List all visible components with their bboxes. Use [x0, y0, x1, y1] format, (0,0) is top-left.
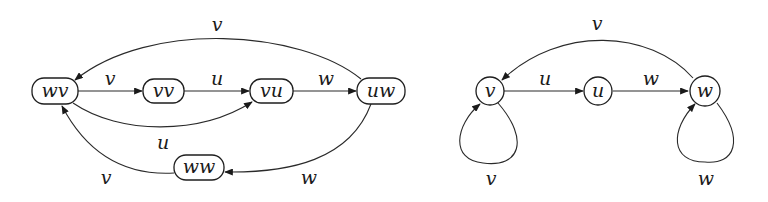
edge-label-wv-vu: u	[157, 131, 169, 153]
edge-label-ww-wv: v	[101, 166, 112, 188]
node-label: v	[485, 79, 496, 101]
edge-label-u-w: w	[643, 67, 659, 89]
node-vu: vu	[250, 79, 293, 103]
node-u: u	[584, 77, 612, 105]
node-wv: wv	[32, 78, 78, 104]
edge-label-vv-vu: u	[211, 67, 223, 89]
node-uw: uw	[357, 78, 405, 104]
edge-label-w-v: v	[592, 12, 603, 34]
edge-v-v-loop	[460, 103, 517, 164]
node-label: vu	[260, 79, 283, 101]
edge-w-w-loop	[677, 103, 733, 162]
node-vv: vv	[143, 79, 184, 103]
left-graph: wv vv vu uw ww v u w v u w v	[32, 13, 405, 188]
node-label: u	[592, 79, 604, 101]
edge-w-v	[502, 40, 693, 80]
edge-label-vu-uw: w	[318, 67, 334, 89]
node-v: v	[476, 77, 504, 105]
edge-label-wv-vv: v	[105, 67, 116, 89]
right-graph: v u w u w v v w	[460, 12, 734, 189]
edge-label-v-loop: v	[486, 167, 497, 189]
node-ww: ww	[174, 155, 224, 180]
node-w: w	[690, 76, 720, 106]
edge-uw-ww	[225, 104, 371, 172]
node-label: uw	[367, 79, 396, 101]
edge-label-w-loop: w	[698, 167, 714, 189]
edge-label-uw-wv: v	[212, 13, 223, 35]
node-label: vv	[153, 79, 175, 101]
node-label: ww	[183, 155, 216, 177]
node-label: wv	[42, 79, 69, 101]
edge-label-v-u: u	[539, 67, 551, 89]
diagram-canvas: wv vv vu uw ww v u w v u w v	[0, 0, 768, 202]
edge-label-uw-ww: w	[301, 166, 317, 188]
edge-wv-vu	[73, 102, 252, 127]
node-label: w	[697, 79, 713, 101]
